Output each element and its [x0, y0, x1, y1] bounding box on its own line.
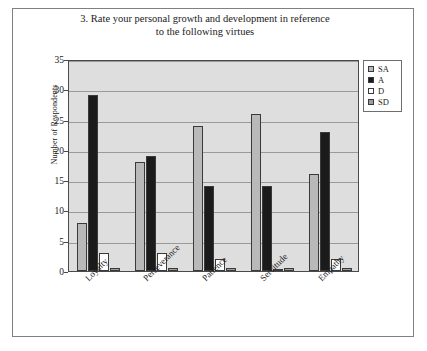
chart-legend: SAADSD	[363, 60, 402, 112]
legend-item-label: A	[378, 76, 384, 85]
bar-servitude-sa	[251, 114, 261, 271]
bar-perseverance-sd	[168, 268, 178, 271]
bar-group	[302, 61, 360, 271]
legend-item-sd[interactable]: SD	[368, 97, 398, 107]
legend-item-label: D	[378, 87, 384, 96]
legend-item-sa[interactable]: SA	[368, 64, 398, 74]
y-axis-tick-mark	[64, 272, 68, 273]
legend-swatch-icon	[368, 99, 374, 105]
y-axis-tick-mark	[64, 181, 68, 182]
y-axis-tick-mark	[64, 121, 68, 122]
y-axis-tick-label: 10	[36, 206, 64, 216]
chart-title: 3. Rate your personal growth and develop…	[40, 12, 370, 38]
bar-servitude-a	[262, 186, 272, 271]
bar-group	[244, 61, 302, 271]
bar-empathy-sa	[309, 174, 319, 271]
legend-item-label: SA	[378, 65, 389, 74]
bar-patience-sa	[193, 126, 203, 271]
y-axis-tick-mark	[64, 60, 68, 61]
bar-patience-a	[204, 186, 214, 271]
y-axis-tick-label: 25	[36, 116, 64, 126]
y-axis-tick-label: 0	[36, 267, 64, 277]
chart-title-line-1: 3. Rate your personal growth and develop…	[40, 12, 370, 25]
legend-swatch-icon	[368, 66, 374, 72]
y-axis-tick-mark	[64, 90, 68, 91]
y-axis-tick-mark	[64, 242, 68, 243]
legend-swatch-icon	[368, 88, 374, 94]
bar-patience-sd	[226, 268, 236, 271]
legend-item-d[interactable]: D	[368, 86, 398, 96]
chart-title-line-2: to the following virtues	[40, 25, 370, 38]
y-axis-tick-label: 35	[36, 55, 64, 65]
y-axis-ticks: 05101520253035	[34, 60, 64, 272]
y-axis-tick-label: 20	[36, 146, 64, 156]
y-axis-tick-label: 15	[36, 176, 64, 186]
legend-item-label: SD	[378, 98, 389, 107]
bar-servitude-sd	[284, 268, 294, 271]
bar-group	[127, 61, 185, 271]
bar-loyalty-sa	[77, 223, 87, 271]
bar-perseverance-a	[146, 156, 156, 271]
bar-loyalty-sd	[110, 268, 120, 271]
bar-perseverance-sa	[135, 162, 145, 271]
legend-swatch-icon	[368, 77, 374, 83]
bar-group	[69, 61, 127, 271]
bar-empathy-a	[320, 132, 330, 271]
legend-item-a[interactable]: A	[368, 75, 398, 85]
y-axis-tick-label: 5	[36, 237, 64, 247]
y-axis-tick-mark	[64, 151, 68, 152]
chart-figure: 3. Rate your personal growth and develop…	[0, 0, 427, 351]
bar-loyalty-a	[88, 95, 98, 271]
bar-group	[185, 61, 243, 271]
bar-empathy-sd	[342, 268, 352, 271]
y-axis-tick-label: 30	[36, 85, 64, 95]
y-axis-tick-mark	[64, 211, 68, 212]
plot-area	[68, 60, 359, 272]
